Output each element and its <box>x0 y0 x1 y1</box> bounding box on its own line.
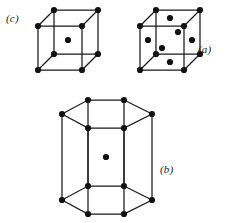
panel-label-fcc: (a) <box>198 44 211 55</box>
fcc-left-face-atom <box>145 37 151 43</box>
fcc-bottom-face-atom <box>167 59 173 65</box>
hex-atoms <box>59 97 155 217</box>
fcc-back-face-atom <box>175 29 181 35</box>
hexagonal-unit-cell-diagram <box>58 96 158 218</box>
fcc-top-face-atom <box>167 15 173 21</box>
panel-label-hexagonal: (b) <box>160 164 173 175</box>
fcc-right-face-atom <box>189 37 195 43</box>
panel-label-bcc: (c) <box>6 13 19 24</box>
hex-body-center-atom <box>103 154 109 160</box>
crystal-lattice-figure: (c) (a) (b) <box>0 0 228 223</box>
bcc-unit-cell-diagram <box>28 4 108 84</box>
fcc-front-face-atom <box>159 45 165 51</box>
bcc-body-center-atom <box>65 37 71 43</box>
